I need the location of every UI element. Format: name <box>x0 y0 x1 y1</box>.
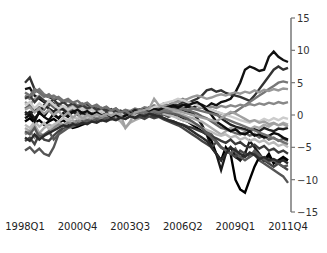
x-tick-label: 2009Q1 <box>216 221 256 232</box>
x-axis-labels: 1998Q12000Q42003Q32006Q22009Q12011Q4 <box>5 221 308 232</box>
y-tick-label: 10 <box>297 45 310 56</box>
y-tick-label: −5 <box>297 142 312 153</box>
line-chart: 151050−5−10−15 1998Q12000Q42003Q32006Q22… <box>0 0 327 253</box>
x-tick-label: 1998Q1 <box>5 221 45 232</box>
y-axis: 151050−5−10−15 <box>291 13 318 218</box>
x-tick-label: 2011Q4 <box>268 221 308 232</box>
x-tick-label: 2003Q3 <box>110 221 150 232</box>
y-tick-label: −10 <box>297 175 318 186</box>
x-tick-label: 2006Q2 <box>163 221 203 232</box>
x-tick-label: 2000Q4 <box>58 221 98 232</box>
series-lines <box>25 52 288 193</box>
y-tick-label: 5 <box>297 78 303 89</box>
y-tick-label: 0 <box>297 110 303 121</box>
y-tick-label: −15 <box>297 207 318 218</box>
y-tick-label: 15 <box>297 13 310 24</box>
